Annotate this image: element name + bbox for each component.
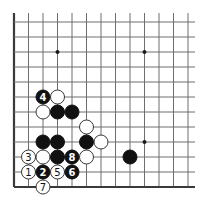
black-stone bbox=[65, 105, 79, 119]
move-number-label: 3 bbox=[25, 152, 31, 163]
go-board: 43812567 bbox=[0, 0, 207, 209]
white-stone-icon bbox=[36, 105, 50, 119]
move-number-label: 5 bbox=[54, 167, 60, 178]
black-stone-move-6: 6 bbox=[65, 165, 79, 179]
black-stone-icon bbox=[51, 105, 65, 119]
black-stone-icon bbox=[36, 135, 50, 149]
star-point-icon bbox=[143, 50, 147, 54]
black-stone-move-2: 2 bbox=[36, 165, 50, 179]
black-stone-icon bbox=[65, 105, 79, 119]
white-stone bbox=[80, 150, 94, 164]
black-stone-icon bbox=[51, 135, 65, 149]
black-stone bbox=[80, 135, 94, 149]
move-number-label: 2 bbox=[40, 167, 47, 178]
white-stone bbox=[51, 90, 65, 104]
white-stone bbox=[36, 105, 50, 119]
white-stone-icon bbox=[51, 90, 65, 104]
black-stone bbox=[36, 135, 50, 149]
white-stone-icon bbox=[80, 150, 94, 164]
move-number-label: 6 bbox=[69, 167, 76, 178]
black-stone bbox=[123, 150, 137, 164]
white-stone-icon bbox=[80, 120, 94, 134]
black-stone bbox=[51, 150, 65, 164]
black-stone-move-4: 4 bbox=[36, 90, 50, 104]
white-stone-move-3: 3 bbox=[22, 150, 36, 164]
black-stone-icon bbox=[51, 150, 65, 164]
move-number-label: 8 bbox=[69, 152, 76, 163]
white-stone-move-5: 5 bbox=[51, 165, 65, 179]
star-point-icon bbox=[56, 50, 60, 54]
white-stone bbox=[80, 120, 94, 134]
move-number-label: 7 bbox=[40, 182, 46, 193]
move-number-label: 1 bbox=[25, 167, 31, 178]
black-stone-icon bbox=[123, 150, 137, 164]
white-stone bbox=[94, 135, 108, 149]
white-stone-icon bbox=[94, 135, 108, 149]
move-number-label: 4 bbox=[40, 92, 47, 103]
white-stone bbox=[36, 150, 50, 164]
white-stone-move-7: 7 bbox=[36, 180, 50, 194]
star-point-icon bbox=[143, 140, 147, 144]
black-stone-move-8: 8 bbox=[65, 150, 79, 164]
black-stone bbox=[51, 135, 65, 149]
black-stone-icon bbox=[80, 135, 94, 149]
white-stone-move-1: 1 bbox=[22, 165, 36, 179]
black-stone bbox=[51, 105, 65, 119]
white-stone-icon bbox=[36, 150, 50, 164]
